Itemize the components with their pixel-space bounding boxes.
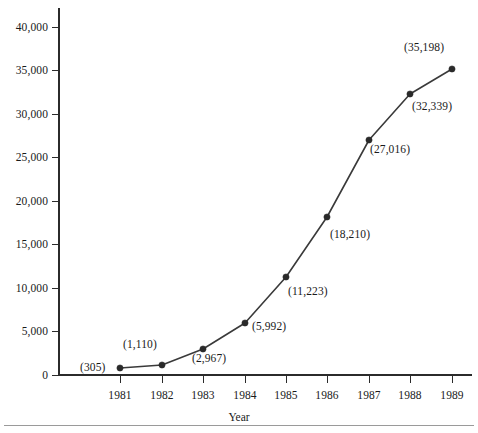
data-point-1988 [407, 91, 413, 97]
point-label-1987: (27,016) [370, 143, 410, 155]
y-tick-label-10000: 10,000 [0, 282, 48, 294]
point-label-1984: (5,992) [252, 320, 286, 332]
point-label-1983: (2,967) [192, 352, 226, 364]
data-point-1985 [283, 274, 289, 280]
point-label-1981: (305) [80, 361, 105, 373]
y-tick-label-40000: 40,000 [0, 21, 48, 33]
data-point-1982 [159, 362, 165, 368]
x-tick-marks [120, 375, 452, 383]
point-label-1985: (11,223) [288, 285, 328, 297]
point-label-1989: (35,198) [404, 41, 444, 53]
data-point-1984 [242, 320, 248, 326]
y-tick-label-35000: 35,000 [0, 64, 48, 76]
y-tick-label-15000: 15,000 [0, 238, 48, 250]
y-tick-label-20000: 20,000 [0, 195, 48, 207]
x-axis-title: Year [189, 411, 289, 423]
chart-canvas [0, 0, 478, 433]
data-point-1986 [324, 214, 330, 220]
y-tick-label-30000: 30,000 [0, 108, 48, 120]
y-tick-marks [52, 27, 59, 375]
point-label-1982: (1,110) [123, 338, 157, 350]
data-point-1981 [117, 365, 123, 371]
line-chart: 40,000 35,000 30,000 25,000 20,000 15,00… [0, 0, 478, 433]
y-tick-label-5000: 5,000 [0, 325, 48, 337]
data-point-1989 [449, 66, 455, 72]
point-label-1986: (18,210) [330, 228, 370, 240]
y-tick-label-0: 0 [0, 369, 48, 381]
y-tick-label-25000: 25,000 [0, 151, 48, 163]
point-label-1988: (32,339) [412, 100, 452, 112]
x-tick-label-1989: 1989 [427, 389, 477, 401]
